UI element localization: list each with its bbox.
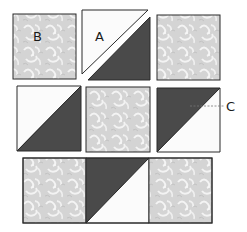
print-square xyxy=(149,158,212,223)
hst-unit-c xyxy=(157,88,220,152)
hst-unit xyxy=(17,86,81,151)
hst-unit xyxy=(86,158,149,223)
row-2 xyxy=(17,86,220,152)
print-square xyxy=(23,158,86,223)
row-1 xyxy=(13,10,220,80)
row-3 xyxy=(23,158,212,223)
print-square xyxy=(157,15,220,80)
label-b: B xyxy=(33,29,42,44)
print-square xyxy=(86,87,150,152)
label-a: A xyxy=(95,29,104,44)
quilt-block-diagram: B A C xyxy=(0,0,247,232)
label-c: C xyxy=(226,99,235,114)
hst-unit-a xyxy=(82,10,150,80)
print-square-b xyxy=(13,14,76,79)
